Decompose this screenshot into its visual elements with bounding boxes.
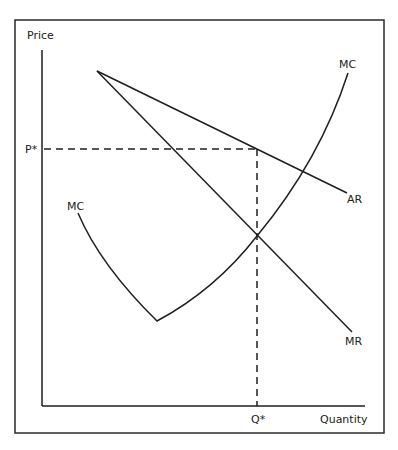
diagram-frame [15,20,384,433]
price-marker-label: P* [25,143,38,156]
ar-curve [97,71,347,193]
x-axis-label: Quantity [320,413,368,426]
y-axis-label: Price [27,29,54,42]
mc-label-left: MC [67,200,84,213]
mc-curve [78,73,348,321]
mr-curve [97,71,352,332]
diagram-canvas: Price Quantity P* Q* MC MC AR MR [0,0,398,450]
mc-label-top: MC [339,58,356,71]
mr-label: MR [345,335,362,348]
quantity-marker-label: Q* [251,413,266,426]
ar-label: AR [347,193,363,206]
